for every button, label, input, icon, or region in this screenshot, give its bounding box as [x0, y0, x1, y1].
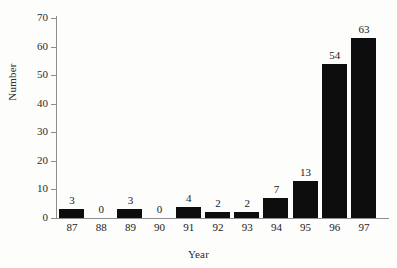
y-tick-label-wrap: 0	[0, 218, 48, 219]
bar-chart-figure: Number Year 010203040506070 303042271354…	[0, 0, 397, 268]
x-tick-label: 97	[344, 221, 384, 233]
bar-value-label: 0	[140, 203, 180, 215]
bar-column[interactable]: 7	[263, 18, 288, 218]
bar-value-label: 2	[227, 197, 267, 209]
x-axis-label: Year	[0, 248, 397, 260]
bar-column[interactable]: 0	[147, 18, 172, 218]
bar[interactable]	[263, 198, 288, 218]
y-tick-label: 50	[2, 68, 48, 80]
bar[interactable]	[351, 38, 376, 218]
y-tick-label-wrap: 50	[0, 75, 48, 76]
bar-column[interactable]: 4	[176, 18, 201, 218]
bar-column[interactable]: 54	[322, 18, 347, 218]
bar[interactable]	[234, 212, 259, 218]
bar-column[interactable]: 3	[117, 18, 142, 218]
bar-value-label: 63	[344, 23, 384, 35]
bar-value-label: 13	[286, 166, 326, 178]
y-axis-label: Number	[6, 42, 18, 122]
y-tick-label-wrap: 10	[0, 189, 48, 190]
y-tick-label: 60	[2, 40, 48, 52]
bar-column[interactable]: 2	[205, 18, 230, 218]
y-tick-label-wrap: 30	[0, 132, 48, 133]
y-tick-label-wrap: 40	[0, 104, 48, 105]
y-tick-label: 20	[2, 154, 48, 166]
bar-column[interactable]: 3	[59, 18, 84, 218]
bar[interactable]	[322, 64, 347, 218]
y-tick-label-wrap: 60	[0, 47, 48, 48]
bar[interactable]	[205, 212, 230, 218]
y-tick-label: 40	[2, 97, 48, 109]
bar-value-label: 7	[256, 183, 296, 195]
plot-area: 30304227135463	[56, 18, 388, 218]
x-axis-line	[56, 218, 389, 219]
y-tick-label: 10	[2, 182, 48, 194]
y-tick-label-wrap: 20	[0, 161, 48, 162]
y-tick-mark	[51, 218, 56, 219]
bar-value-label: 54	[315, 49, 355, 61]
y-tick-label-wrap: 70	[0, 18, 48, 19]
bar-column[interactable]: 0	[88, 18, 113, 218]
y-tick-label: 30	[2, 125, 48, 137]
bar[interactable]	[293, 181, 318, 218]
y-tick-label: 0	[2, 211, 48, 223]
bar-column[interactable]: 63	[351, 18, 376, 218]
y-tick-label: 70	[2, 11, 48, 23]
